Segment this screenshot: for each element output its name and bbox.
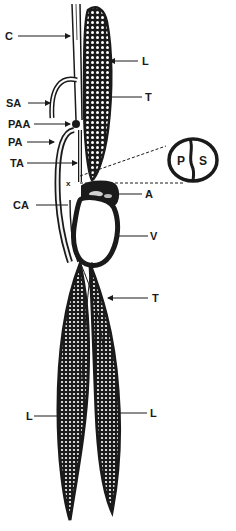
label-l-left: L — [26, 410, 33, 422]
label-v: V — [150, 230, 158, 242]
label-pa: PA — [8, 136, 23, 148]
label-t-bottom: T — [152, 292, 159, 304]
paa-node — [72, 120, 80, 128]
label-a: A — [145, 188, 153, 200]
systemic-arch — [52, 79, 77, 118]
carotid-vessel — [72, 4, 82, 120]
inset-label-s: S — [199, 154, 207, 168]
anatomy-diagram: P S C L T SA PAA PA TA x CA A V T L L — [0, 0, 236, 531]
upper-lung — [84, 7, 111, 180]
label-ca: CA — [13, 199, 29, 211]
label-l-top: L — [142, 55, 149, 67]
label-paa: PAA — [8, 118, 30, 130]
label-ta: TA — [10, 157, 24, 169]
label-sa: SA — [6, 97, 21, 109]
label-c: C — [5, 30, 13, 42]
lower-left-lung — [58, 264, 89, 520]
label-l-right: L — [150, 407, 157, 419]
label-x: x — [66, 179, 71, 188]
label-t-top: T — [145, 91, 152, 103]
ventricle — [74, 198, 118, 266]
inset-label-p: P — [177, 154, 185, 168]
